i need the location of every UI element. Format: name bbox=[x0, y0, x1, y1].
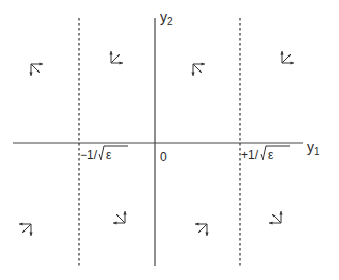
direction-glyph-mid-left-lower bbox=[113, 211, 127, 225]
direction-glyph-mid-right-upper bbox=[191, 62, 205, 76]
svg-text:+1/: +1/ bbox=[241, 148, 259, 162]
direction-glyph-mid-right-lower bbox=[195, 222, 209, 236]
arrowhead-icon bbox=[120, 61, 124, 64]
boundary-neg-label: −1/ ε bbox=[80, 146, 128, 162]
arrowhead-icon bbox=[280, 51, 283, 55]
svg-text:ε: ε bbox=[106, 148, 112, 162]
svg-text:−1/: −1/ bbox=[80, 148, 98, 162]
boundary-pos-label: +1/ ε bbox=[241, 146, 290, 162]
y1-axis-label: y1 bbox=[307, 139, 320, 157]
arrowhead-icon bbox=[195, 222, 199, 225]
arrowhead-icon bbox=[269, 221, 273, 224]
phase-diagram: y1 y2 0 −1/ ε +1/ ε bbox=[0, 0, 339, 280]
svg-text:ε: ε bbox=[268, 148, 274, 162]
arrowhead-icon bbox=[113, 221, 117, 224]
arrowhead-icon bbox=[191, 73, 194, 77]
direction-glyph-far-left-upper bbox=[29, 62, 43, 76]
arrowhead-icon bbox=[109, 51, 112, 55]
origin-label: 0 bbox=[160, 150, 167, 164]
direction-glyph-far-right-lower bbox=[269, 211, 283, 225]
direction-glyph-mid-left-upper bbox=[109, 51, 123, 65]
arrowhead-icon bbox=[19, 222, 23, 225]
y2-axis-label: y2 bbox=[160, 9, 173, 27]
direction-glyph-far-left-lower bbox=[19, 222, 33, 236]
arrowhead-icon bbox=[202, 62, 206, 65]
arrowhead-icon bbox=[29, 73, 32, 77]
arrowhead-icon bbox=[291, 61, 295, 64]
arrowhead-icon bbox=[123, 211, 126, 215]
arrowhead-icon bbox=[205, 233, 208, 237]
sqrt-sign bbox=[261, 146, 290, 160]
sqrt-sign bbox=[99, 146, 128, 160]
direction-glyph-far-right-upper bbox=[280, 51, 294, 65]
arrowhead-icon bbox=[279, 211, 282, 215]
arrowhead-icon bbox=[40, 62, 44, 65]
arrowhead-icon bbox=[29, 233, 32, 237]
diagram-canvas: y1 y2 0 −1/ ε +1/ ε bbox=[0, 0, 339, 280]
